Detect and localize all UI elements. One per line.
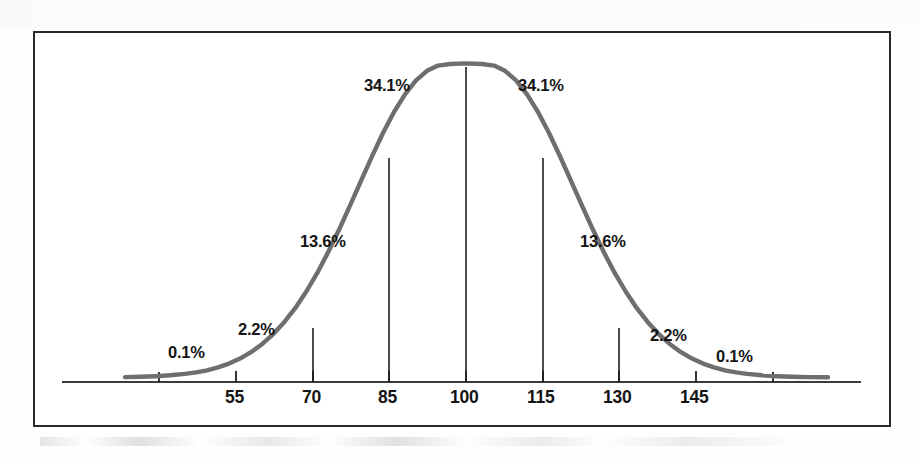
x-tick-label-85: 85 xyxy=(378,387,397,408)
scan-artifact-bottom xyxy=(40,437,800,446)
annotation-pct-34-1-right: 34.1% xyxy=(518,76,564,95)
annotation-pct-2-2-left: 2.2% xyxy=(238,320,275,339)
annotation-pct-2-2-right: 2.2% xyxy=(650,326,687,345)
x-tick-label-145: 145 xyxy=(680,387,709,408)
annotation-pct-0-1-right: 0.1% xyxy=(716,347,753,366)
annotation-pct-0-1-left: 0.1% xyxy=(168,343,205,362)
x-tick-label-115: 115 xyxy=(527,387,555,408)
x-tick-label-130: 130 xyxy=(603,387,632,408)
annotation-pct-13-6-right: 13.6% xyxy=(580,232,626,251)
normal-distribution-curve xyxy=(125,63,828,377)
annotation-pct-34-1-left: 34.1% xyxy=(364,76,410,95)
x-tick-label-70: 70 xyxy=(302,387,321,408)
x-tick-label-100: 100 xyxy=(450,387,479,408)
annotation-pct-13-6-left: 13.6% xyxy=(300,232,346,251)
figure-container: 0.1% 2.2% 13.6% 34.1% 34.1% 13.6% 2.2% 0… xyxy=(0,0,919,458)
x-tick-label-55: 55 xyxy=(225,387,244,408)
sd-divider-lines xyxy=(313,67,619,382)
